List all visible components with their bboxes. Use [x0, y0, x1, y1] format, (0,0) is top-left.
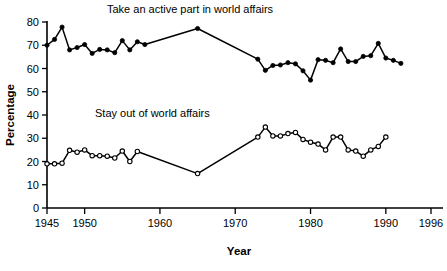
data-point-marker	[75, 45, 79, 49]
y-tick-label: 70	[27, 39, 39, 51]
x-tick-label: 1960	[148, 217, 172, 229]
series-label-active: Take an active part in world affairs	[107, 3, 274, 15]
data-point-marker	[316, 58, 320, 62]
data-point-marker	[135, 149, 139, 153]
data-point-marker	[391, 58, 395, 62]
data-point-marker	[67, 48, 71, 52]
data-point-marker	[263, 68, 267, 72]
data-point-marker	[113, 156, 117, 160]
data-point-marker	[323, 58, 327, 62]
data-point-marker	[361, 154, 365, 158]
data-point-marker	[338, 135, 342, 139]
data-point-marker	[369, 54, 373, 58]
data-point-marker	[128, 48, 132, 52]
data-point-marker	[195, 171, 199, 175]
data-point-marker	[346, 148, 350, 152]
y-tick-label: 20	[27, 156, 39, 168]
y-tick-label: 50	[27, 86, 39, 98]
series-polyline	[47, 27, 401, 80]
data-point-marker	[346, 59, 350, 63]
data-point-marker	[354, 59, 358, 63]
data-point-marker	[361, 54, 365, 58]
data-point-marker	[323, 148, 327, 152]
data-point-marker	[263, 125, 267, 129]
data-point-marker	[98, 153, 102, 157]
data-point-marker	[308, 78, 312, 82]
data-point-marker	[331, 61, 335, 65]
data-point-marker	[271, 63, 275, 67]
x-tick-label: 1990	[374, 217, 398, 229]
data-point-marker	[399, 61, 403, 65]
data-point-marker	[376, 41, 380, 45]
data-point-marker	[369, 148, 373, 152]
series-polyline	[47, 127, 386, 174]
data-point-marker	[135, 40, 139, 44]
x-tick-label: 1950	[72, 217, 96, 229]
data-point-marker	[339, 47, 343, 51]
data-point-marker	[45, 43, 49, 47]
y-axis-title: Percentage	[4, 84, 16, 146]
data-point-marker	[105, 154, 109, 158]
data-point-marker	[120, 39, 124, 43]
data-point-marker	[98, 47, 102, 51]
data-point-marker	[143, 42, 147, 46]
y-tick-label: 10	[27, 179, 39, 191]
series-active	[45, 25, 403, 82]
data-point-marker	[128, 159, 132, 163]
data-point-marker	[52, 162, 56, 166]
data-point-marker	[82, 148, 86, 152]
y-tick-label: 0	[33, 202, 39, 214]
data-point-marker	[75, 150, 79, 154]
data-point-marker	[256, 57, 260, 61]
data-point-marker	[90, 153, 94, 157]
data-point-marker	[376, 144, 380, 148]
data-point-marker	[278, 63, 282, 67]
data-point-marker	[301, 137, 305, 141]
data-point-marker	[256, 135, 260, 139]
chart-container: 0102030405060708019451950196019701980199…	[0, 0, 447, 271]
data-point-marker	[271, 134, 275, 138]
y-tick-label: 80	[27, 16, 39, 28]
series-label-stay-out: Stay out of world affairs	[95, 107, 210, 119]
line-chart: 0102030405060708019451950196019701980199…	[0, 0, 447, 271]
data-point-marker	[52, 37, 56, 41]
data-point-marker	[316, 142, 320, 146]
data-point-marker	[354, 149, 358, 153]
data-point-marker	[384, 135, 388, 139]
data-point-marker	[45, 162, 49, 166]
data-point-marker	[120, 149, 124, 153]
data-point-marker	[286, 131, 290, 135]
data-point-marker	[195, 26, 199, 30]
data-point-marker	[90, 51, 94, 55]
x-axis-title: Year	[227, 245, 252, 257]
data-point-marker	[60, 25, 64, 29]
data-point-marker	[60, 161, 64, 165]
data-point-marker	[293, 130, 297, 134]
data-point-marker	[384, 56, 388, 60]
data-point-marker	[308, 140, 312, 144]
data-point-marker	[286, 61, 290, 65]
data-point-marker	[83, 42, 87, 46]
x-tick-label: 1945	[35, 217, 59, 229]
data-point-marker	[293, 62, 297, 66]
data-point-marker	[105, 48, 109, 52]
data-point-marker	[113, 51, 117, 55]
data-point-marker	[67, 148, 71, 152]
y-tick-label: 30	[27, 132, 39, 144]
data-point-marker	[301, 69, 305, 73]
y-tick-label: 60	[27, 63, 39, 75]
x-tick-label: 1980	[298, 217, 322, 229]
x-tick-label: 1970	[223, 217, 247, 229]
series-stay-out	[45, 125, 388, 176]
data-point-marker	[278, 134, 282, 138]
y-tick-label: 40	[27, 109, 39, 121]
data-point-marker	[331, 135, 335, 139]
x-tick-label: 1996	[419, 217, 443, 229]
